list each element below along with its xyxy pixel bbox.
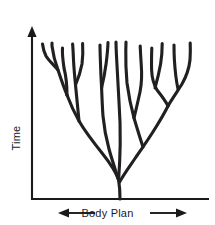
branch-right-r1	[168, 43, 190, 106]
branch-left-l2	[43, 44, 59, 70]
arrow-right-icon	[176, 209, 187, 218]
branch-center-c1	[100, 45, 102, 88]
branch-left-l5	[76, 44, 83, 86]
tree-diagram-canvas: Body Plan Time	[0, 0, 215, 225]
branch-center-c2	[102, 43, 108, 89]
branch-right-main	[120, 106, 168, 182]
tree-branch-group	[43, 42, 191, 199]
branch-right-r5	[155, 44, 162, 89]
branch-right-r4	[152, 48, 168, 106]
y-axis-label-group: Time	[10, 126, 22, 151]
branch-right-r6	[174, 45, 178, 89]
branch-right-r3	[134, 46, 142, 118]
x-axis-label: Body Plan	[82, 207, 134, 219]
arrow-left-icon	[58, 209, 69, 218]
arrow-up-icon	[27, 26, 36, 37]
branch-center-right-main	[116, 42, 120, 180]
y-axis-label: Time	[10, 126, 22, 151]
evolutionary-tree-figure: Body Plan Time	[0, 0, 215, 225]
branch-left-main	[67, 95, 119, 180]
x-axis-label-group: Body Plan	[58, 207, 187, 219]
